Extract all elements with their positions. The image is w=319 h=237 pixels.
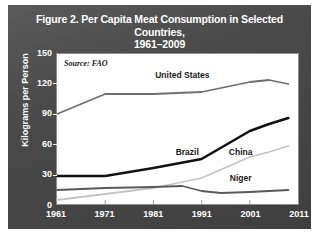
- series-line-brazil: [57, 118, 288, 176]
- series-label-niger: Niger: [230, 173, 252, 183]
- y-tick-mark-120: [53, 83, 57, 84]
- x-tick-label-1991: 1991: [182, 209, 222, 219]
- y-tick-label-30: 30: [28, 170, 52, 179]
- y-tick-label-120: 120: [28, 79, 52, 88]
- figure-card: Figure 2. Per Capita Meat Consumption in…: [8, 5, 311, 229]
- y-axis-tick-labels: 0306090120150: [24, 43, 52, 215]
- figure-title-line-1: Figure 2. Per Capita Meat Consumption in…: [20, 13, 299, 38]
- source-note: Source: FAO: [64, 59, 108, 68]
- chart-region: Kilograms per Person 0306090120150 Sourc…: [8, 43, 311, 229]
- y-tick-mark-60: [53, 144, 57, 145]
- series-line-united-states: [57, 80, 288, 114]
- series-line-niger: [57, 186, 288, 193]
- x-axis-tick-labels: 196119711981199120012011: [8, 209, 311, 225]
- x-tick-label-1961: 1961: [36, 209, 76, 219]
- x-tick-label-1981: 1981: [133, 209, 173, 219]
- y-tick-label-60: 60: [28, 140, 52, 149]
- y-tick-mark-30: [53, 175, 57, 176]
- y-tick-label-90: 90: [28, 109, 52, 118]
- x-tick-label-1971: 1971: [85, 209, 125, 219]
- x-tick-label-2011: 2011: [279, 209, 311, 219]
- series-label-united-states: United States: [155, 70, 209, 80]
- x-tick-label-2001: 2001: [230, 209, 270, 219]
- series-label-china: China: [229, 147, 253, 157]
- series-label-brazil: Brazil: [176, 147, 199, 157]
- y-tick-label-150: 150: [28, 49, 52, 58]
- y-tick-mark-90: [53, 114, 57, 115]
